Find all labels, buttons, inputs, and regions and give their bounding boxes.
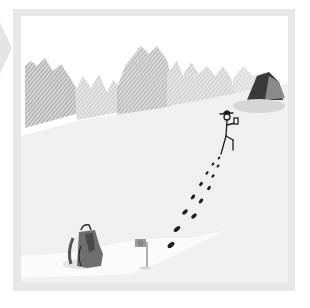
snow-hike-illustration xyxy=(21,16,288,283)
illustration-canvas xyxy=(21,16,288,283)
side-arrow-shape xyxy=(0,22,12,74)
